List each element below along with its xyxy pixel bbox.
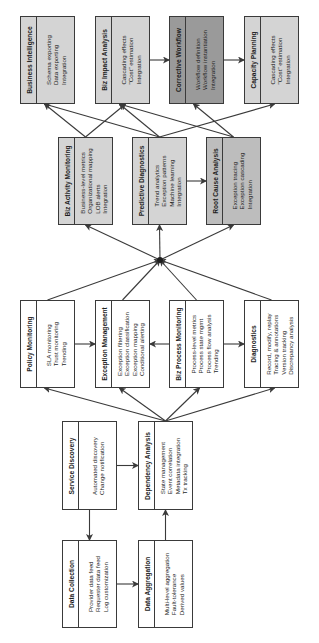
box-title: Corrective Workflow — [174, 28, 181, 92]
box-capacity-planning: Capacity Planning Cascading effects"Cost… — [244, 16, 299, 104]
box-root-cause-analysis: Root Cause Analysis Exception tracingExc… — [206, 137, 261, 225]
box-body: Process-level metricsProcess state mgmtP… — [186, 301, 223, 387]
box-item: Record, modify, replay — [265, 313, 272, 374]
box-biz-process-monitoring: Biz Process Monitoring Process-level met… — [169, 300, 224, 388]
box-item: Fault-tolerance — [170, 553, 177, 615]
box-items: Process-level metricsProcess state mgmtP… — [190, 314, 220, 373]
box-data-collection: Data Collection Provider data feedReques… — [62, 540, 117, 628]
box-title: Dependency Analysis — [143, 432, 150, 500]
box-item: Machine learning — [168, 155, 175, 206]
box-title-strip: Dependency Analysis — [139, 422, 155, 509]
box-title: Diagnostics — [249, 325, 256, 362]
box-item: Data exporting — [52, 35, 59, 85]
connector-arrow-dependency-analysis-to-exception-management — [120, 388, 166, 421]
box-item: "Cost" estimation — [276, 35, 283, 84]
box-item: LOB alerts — [94, 148, 101, 213]
box-body: Schema exportingData exportingIntegratio… — [37, 17, 74, 103]
box-item: Process-level metrics — [190, 314, 197, 373]
box-items: State managementEvent correlationMetadat… — [159, 437, 189, 493]
box-title: Data Collection — [67, 560, 74, 608]
box-items: Trend analyticsException patternsMachine… — [153, 155, 183, 206]
architecture-diagram: Business Intelligence Schema exportingDa… — [0, 0, 319, 643]
connector-arrow-predictive-diagnostics-to-business-intelligence — [45, 104, 160, 137]
box-items: Exception filteringException classificat… — [116, 312, 146, 376]
box-body: Exception filteringException classificat… — [112, 301, 149, 387]
box-item: Integration — [175, 155, 182, 206]
box-biz-impact-analysis: Biz Impact Analysis Cascading effects"Co… — [95, 16, 150, 104]
box-title-strip: Biz Process Monitoring — [170, 301, 186, 387]
box-title: Root Cause Analysis — [211, 148, 218, 213]
box-title-strip: Root Cause Analysis — [207, 138, 223, 224]
box-dependency-analysis: Dependency Analysis State managementEven… — [138, 421, 193, 510]
box-item: Trending — [212, 314, 219, 373]
box-title: Capacity Planning — [249, 31, 256, 88]
box-items: Exception tracingException cascadingInte… — [230, 153, 252, 210]
box-item: Provider data feed — [86, 556, 93, 612]
box-title-strip: Predictive Diagnostics — [133, 138, 149, 224]
box-item: SLA monitoring — [44, 322, 51, 366]
box-item: Multi-level aggregation — [162, 553, 169, 615]
box-item: Integration — [59, 35, 66, 85]
box-title: Business Intelligence — [25, 26, 32, 93]
box-title-strip: Capacity Planning — [245, 17, 261, 103]
box-item: Exception patterns — [160, 155, 167, 206]
box-title-strip: Data Collection — [63, 541, 79, 627]
box-body: Cascading effects"Cost" estimationIntegr… — [261, 17, 298, 103]
box-title: Predictive Diagnostics — [137, 146, 144, 217]
box-body: Multi-level aggregationFault-toleranceDe… — [155, 541, 192, 627]
box-body: Business-level metricsOrganizational map… — [75, 138, 112, 224]
connector-arrow-biz-activity-monitoring-to-biz-impact-analysis — [86, 104, 126, 137]
connector-arrow-policy-monitoring-to-hub — [48, 260, 161, 300]
box-items: Schema exportingData exportingIntegratio… — [44, 35, 66, 85]
box-items: Cascading effects"Cost" estimationIntegr… — [119, 35, 141, 84]
box-service-discovery: Service Discovery Automated discoveryCha… — [62, 421, 117, 510]
box-title-strip: Business Intelligence — [21, 17, 37, 103]
connector-arrow-hub-to-predictive-diagnostics — [160, 225, 161, 260]
connector-arrow-root-cause-analysis-to-corrective-workflow — [194, 104, 234, 137]
box-business-intelligence: Business Intelligence Schema exportingDa… — [20, 16, 75, 104]
connector-arrow-diagnostics-to-hub — [160, 260, 272, 300]
box-item: Event correlation — [166, 437, 173, 493]
box-items: Cascading effects"Cost" estimationIntegr… — [268, 35, 290, 84]
box-item: Process state mgmt — [197, 314, 204, 373]
box-item: Exception filtering — [116, 312, 123, 376]
box-body: Workflow definitionWorkflow instantiatio… — [186, 17, 223, 103]
box-item: Trust monitoring — [52, 322, 59, 366]
box-items: Multi-level aggregationFault-toleranceDe… — [162, 553, 184, 615]
box-item: Trending — [59, 322, 66, 366]
box-title-strip: Exception Management — [96, 301, 112, 387]
box-items: Provider data feedRequester data feedLog… — [86, 556, 108, 612]
box-item: Business-level metrics — [79, 148, 86, 213]
box-item: Schema exporting — [44, 35, 51, 85]
box-item: Workflow definition — [193, 30, 200, 90]
box-item: Metadata integration — [174, 437, 181, 493]
box-item: Derived values — [177, 553, 184, 615]
box-item: Discrepancy analysis — [287, 313, 294, 374]
box-body: Provider data feedRequester data feedLog… — [79, 541, 116, 627]
box-items: Automated discoveryChange notification — [90, 437, 105, 495]
box-items: Record, modify, replayTracing & annotati… — [265, 313, 295, 374]
box-policy-monitoring: Policy Monitoring SLA monitoringTrust mo… — [20, 300, 75, 388]
box-items: Business-level metricsOrganizational map… — [79, 148, 109, 213]
box-title: Biz Activity Monitoring — [63, 145, 70, 216]
box-title-strip: Corrective Workflow — [170, 17, 186, 103]
box-body: SLA monitoringTrust monitoringTrending — [37, 301, 74, 387]
box-item: Exception tracing — [230, 153, 237, 210]
box-title: Biz Impact Analysis — [100, 29, 107, 91]
box-item: Cascading effects — [119, 35, 126, 84]
connector-arrow-biz-activity-monitoring-to-business-intelligence — [45, 104, 86, 137]
box-title-strip: Service Discovery — [63, 422, 79, 509]
box-item: Change notification — [98, 437, 105, 495]
box-title-strip: Biz Activity Monitoring — [59, 138, 75, 224]
box-data-aggregation: Data Aggregation Multi-level aggregation… — [138, 540, 193, 628]
box-item: Log customization — [101, 556, 108, 612]
box-item: Process flow analysis — [205, 314, 212, 373]
box-predictive-diagnostics: Predictive Diagnostics Trend analyticsEx… — [132, 137, 187, 225]
box-item: Integration — [208, 30, 215, 90]
box-exception-management: Exception Management Exception filtering… — [95, 300, 150, 388]
box-item: State management — [159, 437, 166, 493]
box-title: Exception Management — [100, 307, 107, 381]
box-item: Exception classification — [123, 312, 130, 376]
connector-arrow-hub-to-biz-activity-monitoring — [86, 225, 161, 260]
box-body: Cascading effects"Cost" estimationIntegr… — [112, 17, 149, 103]
